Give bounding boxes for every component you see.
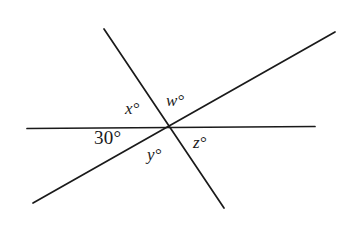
shallow-ascending-line [33,32,335,203]
angle-label-z: z° [193,134,206,151]
geometry-diagram: x° w° 30° y° z° [0,0,345,227]
lines-canvas [0,0,345,227]
angle-label-30: 30° [94,128,121,147]
angle-label-x: x° [125,100,139,117]
angle-label-y: y° [147,146,161,163]
angle-label-w: w° [166,92,184,109]
steep-descending-line [104,29,224,208]
